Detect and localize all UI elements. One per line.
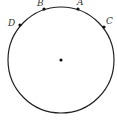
- label-a: A: [76, 0, 84, 7]
- label-c: C: [106, 16, 113, 26]
- point-d: [18, 23, 21, 26]
- circle-diagram: B A D C: [0, 0, 117, 129]
- label-d: D: [7, 18, 15, 28]
- point-a: [76, 7, 79, 10]
- label-b: B: [36, 0, 44, 8]
- center-point: [59, 58, 62, 61]
